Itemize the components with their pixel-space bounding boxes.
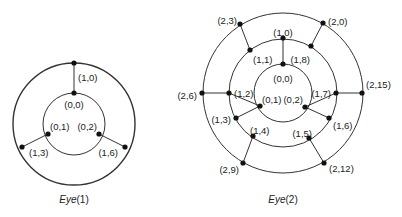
caption-title: Eye — [268, 194, 286, 205]
node-dot — [359, 90, 364, 95]
node-label: (1,5) — [292, 128, 312, 139]
diagram-caption: Eye(2) — [268, 194, 297, 205]
node-label: (1,2) — [234, 88, 254, 99]
caption-arg: (1) — [77, 194, 89, 205]
edge — [311, 23, 323, 46]
node-label: (0,0) — [273, 73, 293, 84]
node-label: (1,7) — [311, 88, 331, 99]
node-dot — [247, 47, 252, 52]
node-dot — [320, 20, 325, 25]
node-dot — [333, 90, 338, 95]
node-label: (1,6) — [98, 147, 118, 158]
diagram-caption: Eye(1) — [59, 194, 88, 205]
node-dot — [226, 90, 231, 95]
node-label: (1,0) — [78, 72, 98, 83]
node-label: (1,1) — [253, 54, 273, 65]
node-label: (1,4) — [250, 125, 270, 136]
node-dot — [280, 61, 285, 66]
node-label: (0,0) — [64, 99, 84, 110]
edge — [305, 107, 329, 118]
node-label: (2,3) — [217, 15, 237, 26]
node-dot — [326, 115, 331, 120]
node-label: (2,9) — [219, 164, 239, 175]
node-dot — [96, 131, 101, 136]
node-dot — [308, 43, 313, 48]
node-dot — [240, 160, 245, 165]
node-label: (2,12) — [329, 163, 354, 174]
node-dot — [71, 90, 76, 95]
node-dot — [122, 144, 127, 149]
node-label: (2,15) — [366, 79, 391, 90]
node-label: (0,1) — [50, 121, 70, 132]
node-label: (1,3) — [29, 147, 49, 158]
node-dot — [302, 104, 307, 109]
edge — [243, 136, 253, 163]
node-dot — [199, 90, 204, 95]
node-label: (0,2) — [283, 94, 303, 105]
node-dot — [71, 60, 76, 65]
diagram-eye-2: (0,0)(0,1)(0,2)(1,0)(1,1)(1,2)(1,3)(1,4)… — [177, 13, 390, 205]
node-dot — [237, 21, 242, 26]
node-label: (2,0) — [328, 16, 348, 27]
node-dot — [45, 131, 50, 136]
edge — [240, 24, 250, 50]
edge — [236, 106, 260, 118]
node-label: (1,0) — [273, 27, 293, 38]
caption-title: Eye — [59, 194, 77, 205]
node-dot — [19, 144, 24, 149]
node-label: (0,2) — [77, 121, 97, 132]
node-dot — [321, 160, 326, 165]
node-label: (1,3) — [211, 114, 231, 125]
edge — [22, 134, 48, 147]
edge — [309, 138, 324, 163]
eye-graphs-diagram: (0,0)(0,1)(0,2)(1,0)(1,3)(1,6)Eye(1)(0,0… — [0, 0, 402, 217]
node-label: (2,6) — [177, 90, 197, 101]
diagram-eye-1: (0,0)(0,1)(0,2)(1,0)(1,3)(1,6)Eye(1) — [13, 60, 135, 205]
node-dot — [233, 115, 238, 120]
node-label: (1,6) — [333, 120, 353, 131]
caption-arg: (2) — [286, 194, 298, 205]
node-label: (0,1) — [262, 94, 282, 105]
node-label: (1,8) — [290, 54, 310, 65]
edge — [99, 134, 125, 147]
